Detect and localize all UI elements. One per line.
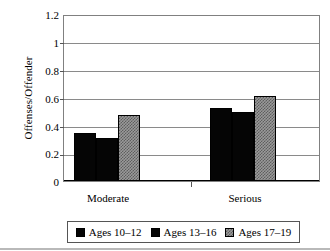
bar-moderate-ages-17-19 (118, 115, 140, 181)
bar-serious-ages-17-19 (254, 96, 276, 181)
y-tick-label-0.4: 0.4 (26, 122, 59, 133)
legend-swatch-icon-ages-10-12 (76, 228, 85, 237)
legend-label-ages-10-12: Ages 10–12 (89, 227, 142, 238)
x-label-moderate: Moderate (87, 192, 129, 204)
page-bottom-rule (0, 248, 330, 250)
legend: Ages 10–12 Ages 13–16 Ages 17–19 (67, 221, 300, 243)
legend-label-ages-17-19: Ages 17–19 (238, 227, 291, 238)
gridline-0.4 (64, 127, 319, 128)
y-tick-label-1.2: 1.2 (26, 10, 59, 21)
plot-area (63, 15, 320, 182)
y-axis-tick-labels: 0 0.2 0.4 0.6 0.8 1 1.2 (26, 0, 59, 251)
bar-serious-ages-13-16 (232, 112, 254, 181)
bar-chart: Offenses/Offender 0 0.2 0.4 0.6 0.8 1 1.… (0, 0, 330, 251)
gridline-0.8 (64, 71, 319, 72)
gridline-1.0 (64, 43, 319, 44)
x-axis-group-divider-tick (191, 182, 192, 187)
legend-swatch-icon-ages-13-16 (151, 228, 160, 237)
legend-label-ages-13-16: Ages 13–16 (164, 227, 217, 238)
y-tick-label-1: 1 (26, 38, 59, 49)
bar-moderate-ages-13-16 (96, 138, 118, 181)
x-label-serious: Serious (229, 192, 262, 204)
y-tick-label-0.8: 0.8 (26, 66, 59, 77)
y-tick-label-0.2: 0.2 (26, 149, 59, 160)
y-tick-label-0: 0 (26, 177, 59, 188)
legend-item-ages-17-19: Ages 17–19 (225, 227, 291, 238)
bar-serious-ages-10-12 (210, 108, 232, 181)
legend-item-ages-13-16: Ages 13–16 (151, 227, 217, 238)
gridline-0.6 (64, 99, 319, 100)
y-tick-label-0.6: 0.6 (26, 94, 59, 105)
legend-item-ages-10-12: Ages 10–12 (76, 227, 142, 238)
bar-moderate-ages-10-12 (74, 133, 96, 181)
legend-swatch-icon-ages-17-19 (225, 228, 234, 237)
